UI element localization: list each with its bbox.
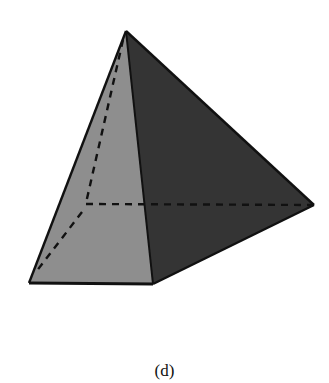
figure-caption: (d)	[0, 361, 329, 381]
pyramid-figure	[0, 0, 329, 383]
pyramid-right-face	[126, 31, 314, 284]
edge-base-front	[29, 283, 153, 284]
pyramid-diagram	[0, 0, 329, 383]
